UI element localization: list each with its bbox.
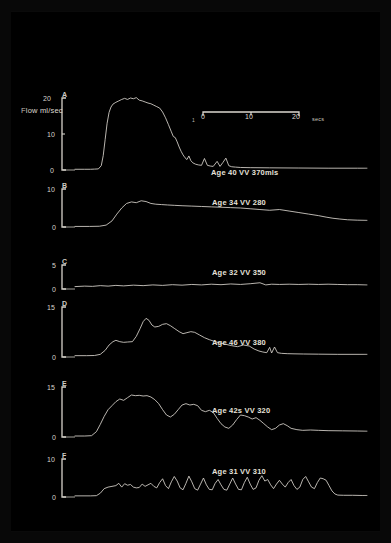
panel-letter-a: A — [62, 91, 67, 98]
panel-c-annotation: Age 32 VV 350 — [212, 268, 266, 277]
panel-b-ytick-min: 0 — [52, 224, 56, 231]
panel-c-ytick-max: 5 — [52, 262, 56, 269]
panel-c-ytick-min: 0 — [52, 286, 56, 293]
panel-a-annotation: Age 40 VV 370mls — [211, 168, 278, 177]
figure-plate: Flow ml/sec A 20 10 0 Age 40 VV 370mls B… — [11, 12, 380, 531]
panel-letter-d: D — [62, 300, 67, 307]
panel-d-ytick-min: 0 — [52, 354, 56, 361]
panel-f-ytick-min: 0 — [52, 494, 56, 501]
time-scale-tick-10: 10 — [245, 113, 253, 120]
panel-f-ytick-max: 10 — [47, 456, 55, 463]
panel-letter-e: E — [62, 380, 67, 387]
panel-d-ytick-max: 15 — [47, 304, 55, 311]
y-axis-title: Flow ml/sec — [21, 106, 63, 115]
time-scale-unit-label: secs — [312, 116, 324, 122]
panel-a-ytick-max: 20 — [43, 95, 51, 102]
panel-e-ytick-max: 15 — [47, 384, 55, 391]
panel-a-ytick-mid: 10 — [47, 131, 55, 138]
panel-e-ytick-min: 0 — [52, 434, 56, 441]
figure-root: Flow ml/sec A 20 10 0 Age 40 VV 370mls B… — [0, 0, 391, 543]
panel-a-ytick-min: 0 — [50, 167, 54, 174]
time-scale-tick-20: 20 — [292, 113, 300, 120]
panel-e-annotation: Age 42s VV 320 — [212, 406, 270, 415]
panel-b-annotation: Age 34 VV 280 — [212, 198, 266, 207]
time-scale-left-mark: 1 — [192, 117, 195, 123]
panel-b-ytick-max: 10 — [47, 186, 55, 193]
panel-d-annotation: Age 46 VV 380 — [212, 338, 266, 347]
panel-letter-f: F — [62, 452, 66, 459]
panel-f-annotation: Age 31 VV 310 — [212, 467, 266, 476]
panel-letter-b: B — [62, 182, 67, 189]
panel-letter-c: C — [62, 258, 67, 265]
time-scale-tick-0: 0 — [201, 113, 205, 120]
